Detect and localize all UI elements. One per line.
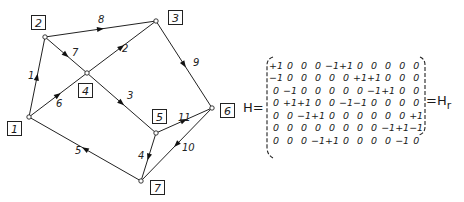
matrix-cell: 0 — [269, 97, 283, 110]
matrix-cell: 0 — [325, 122, 339, 135]
matrix-cell: +1 — [395, 122, 409, 135]
edge-label: 4 — [138, 150, 144, 161]
matrix-cell: 0 — [283, 122, 297, 135]
matrix-row: +1000−1+100000 — [269, 59, 423, 72]
matrix-cell: 0 — [339, 84, 353, 97]
matrix-cell: +1 — [297, 97, 311, 110]
edge-label: 8 — [98, 14, 104, 25]
matrix-cell: 0 — [311, 59, 325, 72]
matrix-cell: −1 — [409, 122, 423, 135]
matrix-cell: 0 — [283, 109, 297, 122]
matrix-cell: 0 — [381, 97, 395, 110]
matrix-cell: 0 — [367, 134, 381, 147]
matrix-row: 00−1+1000000+1 — [269, 109, 423, 122]
matrix-cell: 0 — [269, 109, 283, 122]
matrix-cell: 0 — [353, 59, 367, 72]
edge-label: 10 — [182, 142, 195, 153]
matrix-cell: 0 — [367, 59, 381, 72]
matrix-cell: 0 — [325, 109, 339, 122]
matrix-cell: 0 — [269, 84, 283, 97]
matrix-cell: 0 — [339, 72, 353, 85]
edge-label: 3 — [127, 90, 133, 101]
edge-label: 2 — [122, 43, 128, 54]
directed-graph: 12345678910111234567 — [0, 0, 240, 202]
matrix-row: 0−100000−1+100 — [269, 84, 423, 97]
matrix-cell: −1 — [339, 97, 353, 110]
matrix-cell: −1 — [367, 84, 381, 97]
node-point — [43, 35, 47, 39]
arrow-icon — [147, 153, 152, 160]
matrix-cell: +1 — [339, 59, 353, 72]
matrix-cell: 0 — [283, 72, 297, 85]
matrix-cell: +1 — [269, 59, 283, 72]
matrix-cell: 0 — [353, 134, 367, 147]
node-label-box: 6 — [220, 103, 235, 118]
node-point — [85, 71, 89, 75]
matrix-cell: 0 — [395, 59, 409, 72]
matrix-cell: −1 — [381, 122, 395, 135]
matrix-cell: 0 — [339, 109, 353, 122]
matrix-cell: 0 — [339, 134, 353, 147]
matrix-cell: 0 — [367, 97, 381, 110]
matrix-cell: 0 — [381, 109, 395, 122]
matrix-cell: +1 — [409, 109, 423, 122]
matrix-cell: +1 — [353, 72, 367, 85]
matrix-cell: 0 — [311, 97, 325, 110]
matrix-cell: −1 — [353, 97, 367, 110]
node-point — [154, 19, 158, 23]
node-point — [210, 106, 214, 110]
node-label-box: 5 — [152, 109, 167, 124]
arrow-icon — [34, 74, 39, 81]
matrix-cell: 0 — [395, 97, 409, 110]
matrix-cell: −1 — [283, 84, 297, 97]
matrix-cell: 0 — [311, 122, 325, 135]
edge-label: 5 — [75, 145, 81, 156]
arrow-icon — [180, 60, 186, 67]
matrix-cell: −1 — [311, 134, 325, 147]
matrix-cell: 0 — [395, 109, 409, 122]
matrix-row: 000−1+10000−10 — [269, 134, 423, 147]
node-label-box: 1 — [7, 121, 22, 136]
matrix-cell: 0 — [297, 59, 311, 72]
matrix-cell: 0 — [395, 84, 409, 97]
matrix-cell: 0 — [409, 134, 423, 147]
matrix-cell: 0 — [311, 84, 325, 97]
matrix-label-Hr: =Hr — [426, 93, 451, 112]
node-label-box: 3 — [168, 10, 183, 25]
matrix-cell: −1 — [325, 59, 339, 72]
matrix-cell: 0 — [353, 122, 367, 135]
matrix-cell: −1 — [395, 134, 409, 147]
matrix-cell: 0 — [381, 72, 395, 85]
arrow-icon — [97, 27, 104, 32]
matrix-cell: 0 — [381, 59, 395, 72]
node-label-box: 7 — [150, 180, 165, 195]
node-label-box: 2 — [31, 15, 46, 30]
matrix-cell: 0 — [283, 59, 297, 72]
matrix-cell: 0 — [311, 72, 325, 85]
matrix-cell: −1 — [269, 72, 283, 85]
matrix-row: 0+1+100−1−10000 — [269, 97, 423, 110]
matrix-cell: 0 — [325, 97, 339, 110]
matrix-cell: 0 — [409, 72, 423, 85]
matrix-table: +1000−1+100000−100000+1+10000−100000−1+1… — [269, 59, 423, 147]
matrix-cell: 0 — [381, 134, 395, 147]
matrix-cell: −1 — [297, 109, 311, 122]
matrix-cell: 0 — [269, 122, 283, 135]
matrix-cell: 0 — [353, 109, 367, 122]
matrix-cell: +1 — [283, 97, 297, 110]
matrix-cell: 0 — [297, 122, 311, 135]
matrix-row: 00000000−1+1−1 — [269, 122, 423, 135]
edge-label: 1 — [28, 70, 34, 81]
matrix-cell: 0 — [409, 59, 423, 72]
matrix-cell: +1 — [381, 84, 395, 97]
matrix-cell: 0 — [367, 109, 381, 122]
edge-label: 6 — [56, 98, 62, 109]
edge-label: 11 — [178, 112, 191, 123]
matrix-cell: 0 — [269, 134, 283, 147]
matrix-cell: 0 — [409, 84, 423, 97]
matrix-cell: +1 — [311, 109, 325, 122]
node-point — [27, 115, 31, 119]
matrix-cell: 0 — [395, 72, 409, 85]
matrix-cell: 0 — [409, 97, 423, 110]
arrow-icon — [82, 147, 89, 153]
